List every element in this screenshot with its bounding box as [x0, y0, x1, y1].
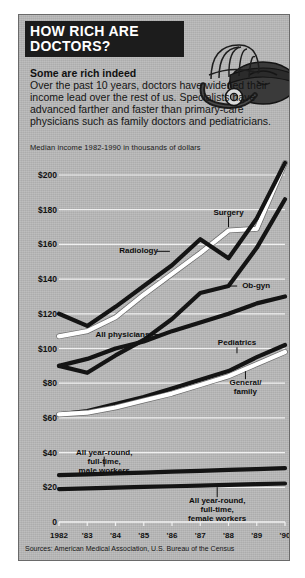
- y-axis-label: $180: [23, 205, 57, 215]
- y-axis-label: $200: [23, 170, 57, 180]
- x-axis-label: '86: [167, 531, 178, 540]
- annotation-all-year-round-full-time-female-workers: All year-round,full-time,female workers: [188, 496, 246, 523]
- series-line-all-year-round-full-time-female-workers: [59, 483, 285, 489]
- x-axis-label: '83: [82, 531, 93, 540]
- x-axis-label: 1982: [50, 531, 68, 540]
- x-axis-label: '85: [138, 531, 149, 540]
- source-credit: Sources: American Medical Association, U…: [25, 545, 234, 552]
- y-axis-label: $60: [23, 413, 57, 423]
- y-axis-label: 0: [23, 517, 57, 527]
- y-axis-label: $120: [23, 309, 57, 319]
- x-axis-label: '90: [280, 531, 290, 540]
- income-line-chart: 0$20$40$60$80$100$120$140$160$180$200 19…: [19, 15, 289, 560]
- x-axis-label: '88: [223, 531, 234, 540]
- y-axis-label: $80: [23, 378, 57, 388]
- newspaper-infographic-page: HOW RICH ARE DOCTORS?: [0, 0, 305, 578]
- y-axis-label: $20: [23, 482, 57, 492]
- annotation-surgery: Surgery: [213, 208, 243, 217]
- x-axis-label: '87: [195, 531, 206, 540]
- x-axis-label: '84: [110, 531, 121, 540]
- series-line-surgery: [59, 163, 285, 337]
- series-line-halo: [59, 163, 285, 337]
- annotation-pediatrics: Pediatrics: [218, 338, 256, 347]
- infographic-panel: HOW RICH ARE DOCTORS?: [18, 14, 290, 561]
- annotation-all-year-round-full-time-male-workers: All year-round,full-time,male workers: [76, 448, 132, 475]
- annotation-ob-gyn: Ob-gyn: [242, 281, 270, 290]
- y-axis-label: $160: [23, 239, 57, 249]
- y-axis-label: $140: [23, 274, 57, 284]
- annotation-radiology: Radiology: [98, 246, 158, 255]
- y-axis-labels: 0$20$40$60$80$100$120$140$160$180$200: [21, 15, 57, 560]
- annotation-general-family: General/family: [229, 378, 261, 396]
- x-axis-label: '89: [251, 531, 262, 540]
- annotation-all-physicians: All physicians: [89, 330, 149, 339]
- y-axis-label: $100: [23, 344, 57, 354]
- y-axis-label: $40: [23, 448, 57, 458]
